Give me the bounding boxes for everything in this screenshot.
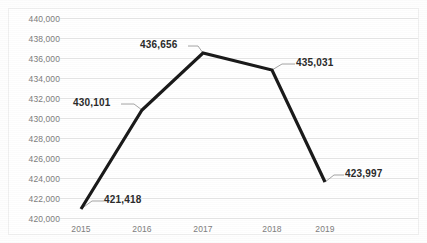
data-series-line	[81, 53, 325, 209]
data-point-label: 436,656	[140, 39, 178, 50]
label-leader-lines	[81, 46, 344, 209]
data-point-label: 421,418	[104, 194, 142, 205]
gridlines	[60, 19, 418, 219]
data-point-label: 435,031	[296, 57, 334, 68]
plot-area	[0, 0, 427, 243]
data-point-label: 423,997	[345, 168, 383, 179]
data-point-label: 430,101	[73, 97, 111, 108]
line-chart: 440,000 438,000 436,000 434,000 432,000 …	[0, 0, 427, 243]
